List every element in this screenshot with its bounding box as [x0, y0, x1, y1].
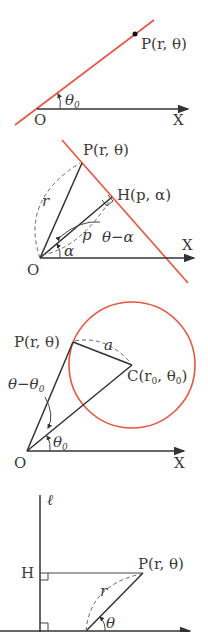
label-axis: X [182, 236, 193, 254]
diagram-directrix: ℓ H P(r, θ) r θ [0, 491, 190, 632]
label-center: C(r0, θ0) [127, 367, 187, 386]
label-point: P(r, θ) [138, 555, 184, 573]
right-angle-mark-h [40, 573, 48, 580]
angle-alpha-arc [57, 244, 60, 258]
label-point: P(r, θ) [83, 141, 129, 159]
label-axis: X [173, 111, 184, 129]
label-angle-diff: θ−α [102, 228, 134, 246]
label-angle: θ0 [53, 433, 68, 452]
label-directrix: ℓ [47, 491, 53, 509]
label-radius: a [104, 336, 113, 354]
label-angle: θ0 [65, 91, 80, 110]
segment-oc [27, 365, 132, 451]
label-point: P(r, θ) [141, 35, 187, 53]
polar-diagrams: P(r, θ) θ0 O X P(r, θ) H(p, α) r p θ−α α… [0, 0, 208, 632]
segment-pc [73, 342, 132, 365]
segment-op [27, 342, 73, 451]
label-foot: H [21, 564, 34, 582]
right-angle-mark-base [40, 623, 48, 631]
angle-arc [58, 94, 60, 109]
label-axis: X [174, 454, 185, 472]
label-origin: O [14, 454, 26, 472]
point-p [133, 32, 138, 37]
label-foot: H(p, α) [117, 186, 171, 204]
line [62, 140, 188, 283]
label-point: P(r, θ) [14, 333, 60, 351]
label-angle: θ [106, 614, 115, 632]
angle-arc [47, 436, 50, 451]
label-p: p [82, 226, 92, 244]
angle-arc [100, 617, 105, 631]
label-r: r [100, 582, 108, 600]
arc-a [75, 340, 130, 362]
label-origin: O [27, 261, 39, 279]
segment-op [40, 163, 82, 258]
label-origin: O [34, 111, 46, 129]
diagram-circle: P(r, θ) a C(r0, θ0) θ−θ0 θ0 O X [8, 302, 195, 472]
diagram-line-through-origin: P(r, θ) θ0 O X [15, 20, 188, 129]
label-alpha: α [64, 242, 74, 260]
label-angle-diff: θ−θ0 [8, 375, 45, 394]
diagram-line-perpendicular: P(r, θ) H(p, α) r p θ−α α O X [27, 140, 194, 283]
label-r: r [42, 192, 50, 210]
